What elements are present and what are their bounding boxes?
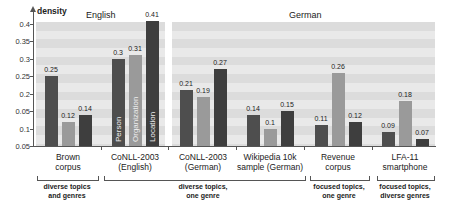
bar-value-label: 0.19 [191,87,215,94]
x-tick-mark [236,146,237,150]
y-tick-label: 0.25 [2,72,30,81]
y-tick-label: 0.35 [2,37,30,46]
bar-location [416,139,429,146]
bar-value-label: 0.12 [343,112,367,119]
in-bar-series-label: Organization [131,97,140,142]
bar-organization [62,122,75,146]
y-tick-label: 0.05 [2,142,30,151]
bar-value-label: 0.27 [208,59,232,66]
bar-organization [399,101,412,146]
y-tick-mark [30,41,33,42]
bar-value-label: 0.41 [140,11,164,18]
bar-value-label: 0.14 [241,105,265,112]
bar-location [79,115,92,146]
bar-value-label: 0.25 [39,66,63,73]
bar-value-label: 0.15 [275,101,299,108]
bar-person [180,90,193,146]
y-tick-mark [30,94,33,95]
bar-value-label: 0.1 [258,119,282,126]
y-tick-mark [30,111,33,112]
y-axis [33,10,34,147]
y-tick-label: 0.2 [2,89,30,98]
x-tick-mark [101,146,102,150]
bar-location [214,69,227,146]
x-tick-mark [304,146,305,150]
panel-title-german: German [289,10,322,20]
bar-location [281,111,294,146]
x-tick-mark [372,146,373,150]
bar-value-label: 0.18 [393,91,417,98]
y-tick-label: 0.1 [2,124,30,133]
bar-value-label: 0.14 [73,105,97,112]
bar-organization [197,97,210,146]
bar-value-label: 0.07 [410,129,434,136]
bar-value-label: 0.31 [123,45,147,52]
bar-organization [332,73,345,146]
in-bar-series-label: Location [148,112,157,142]
y-tick-mark [30,59,33,60]
in-bar-series-label: Person [114,117,123,142]
bar-organization [264,129,277,146]
panel-title-english: English [86,10,116,20]
y-tick-label: 0.4 [2,20,30,29]
y-tick-label: 0.3 [2,54,30,63]
bar-value-label: 0.09 [376,122,400,129]
group-bracket [310,176,370,181]
y-tick-label: 0.05 [2,107,30,116]
bar-value-label: 0.11 [309,115,333,122]
group-bracket [37,176,99,181]
bar-value-label: 0.26 [326,63,350,70]
category-label: LFA-11smartphone [365,152,445,172]
bar-person [382,132,395,146]
y-tick-mark [30,146,33,147]
x-axis [33,146,436,147]
group-bracket [377,176,435,181]
bar-value-label: 0.21 [174,80,198,87]
y-axis-label: density [37,6,67,16]
group-label: diverse topics,one genre [158,183,248,200]
y-tick-mark [30,129,33,130]
y-tick-mark [30,76,33,77]
y-tick-mark [30,24,33,25]
bar-value-label: 0.12 [56,112,80,119]
group-label: focused topics,diverse genres [360,183,450,200]
group-bracket [104,176,306,181]
group-label: diverse topicsand genres [22,183,112,200]
y-axis-arrow-icon [30,6,36,12]
x-tick-mark [168,146,169,150]
bar-location [349,122,362,146]
bar-person [315,125,328,146]
